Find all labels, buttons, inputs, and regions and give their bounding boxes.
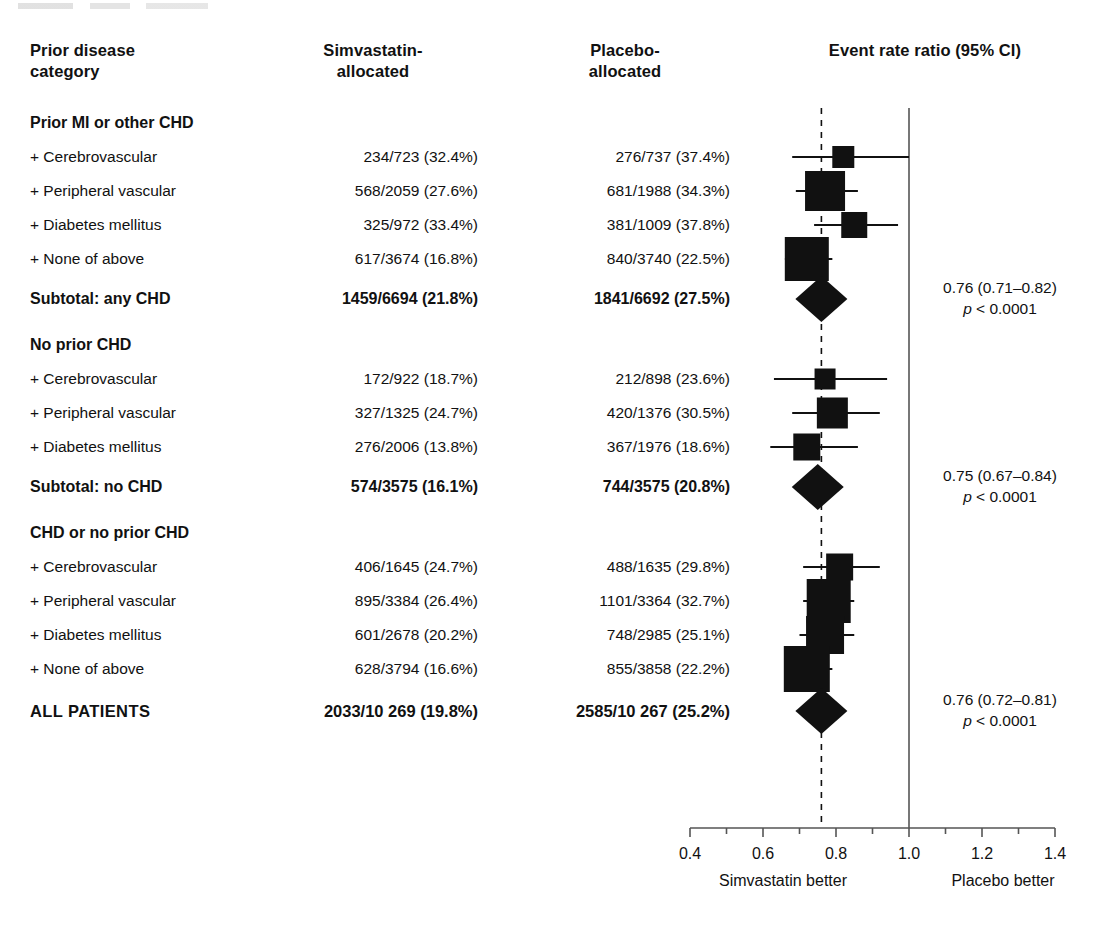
row-category-label: + None of above (30, 658, 290, 680)
row-category-label: + Cerebrovascular (30, 146, 290, 168)
row-placebo-value: 855/3858 (22.2%) (520, 658, 730, 680)
row-placebo-value: 420/1376 (30.5%) (520, 402, 730, 424)
row-placebo-value: 1841/6692 (27.5%) (520, 288, 730, 310)
row-simvastatin-value: 628/3794 (16.6%) (268, 658, 478, 680)
row-category-label: + None of above (30, 248, 290, 270)
column-header-placebo: Placebo- allocated (520, 40, 730, 82)
row-placebo-value: 744/3575 (20.8%) (520, 476, 730, 498)
row-category-label: + Peripheral vascular (30, 402, 290, 424)
row-category-label: No prior CHD (30, 334, 290, 356)
row-category-label: Subtotal: no CHD (30, 476, 290, 498)
plot-title: Event rate ratio (95% CI) (760, 40, 1090, 61)
point-estimate-square (806, 616, 844, 654)
axis-tick-label: 1.4 (1025, 845, 1085, 863)
table-row: CHD or no prior CHD (0, 522, 760, 544)
column-header-category: Prior disease category (30, 40, 260, 82)
axis-footer-left: Simvastatin better (668, 872, 898, 890)
row-simvastatin-value: 234/723 (32.4%) (268, 146, 478, 168)
point-estimate-square (832, 146, 854, 168)
row-simvastatin-value: 327/1325 (24.7%) (268, 402, 478, 424)
row-category-label: + Diabetes mellitus (30, 436, 290, 458)
table-row: + Peripheral vascular327/1325 (24.7%)420… (0, 402, 760, 424)
row-category-label: ALL PATIENTS (30, 700, 290, 722)
table-row: ALL PATIENTS2033/10 269 (19.8%)2585/10 2… (0, 700, 760, 722)
table-row: No prior CHD (0, 334, 760, 356)
row-placebo-value: 212/898 (23.6%) (520, 368, 730, 390)
axis-tick-label: 1.0 (879, 845, 939, 863)
row-simvastatin-value: 325/972 (33.4%) (268, 214, 478, 236)
row-simvastatin-value: 617/3674 (16.8%) (268, 248, 478, 270)
summary-ratio: 0.76 (0.71–0.82) (900, 277, 1100, 298)
summary-diamond (795, 276, 847, 322)
table-row: + Peripheral vascular895/3384 (26.4%)110… (0, 590, 760, 612)
pvalue-symbol: p (963, 300, 972, 317)
table-row: + Cerebrovascular172/922 (18.7%)212/898 … (0, 368, 760, 390)
pvalue-number: < 0.0001 (972, 488, 1037, 505)
row-simvastatin-value: 1459/6694 (21.8%) (268, 288, 478, 310)
column-header-simvastatin: Simvastatin- allocated (268, 40, 478, 82)
table-row: Subtotal: any CHD1459/6694 (21.8%)1841/6… (0, 288, 760, 310)
column-header-category-line2: category (30, 61, 260, 82)
summary-pvalue: p < 0.0001 (900, 710, 1100, 731)
forest-plot-figure: Prior disease category Simvastatin- allo… (0, 0, 1113, 925)
row-category-label: + Cerebrovascular (30, 368, 290, 390)
row-category-label: CHD or no prior CHD (30, 522, 290, 544)
point-estimate-square (784, 646, 830, 692)
pvalue-number: < 0.0001 (972, 300, 1037, 317)
pvalue-symbol: p (963, 488, 972, 505)
row-category-label: + Diabetes mellitus (30, 214, 290, 236)
point-estimate-square (815, 369, 836, 390)
scan-artifact (18, 3, 238, 9)
axis-tick-label: 0.6 (733, 845, 793, 863)
point-estimate-square (817, 398, 848, 429)
row-simvastatin-value: 574/3575 (16.1%) (268, 476, 478, 498)
row-simvastatin-value: 568/2059 (27.6%) (268, 180, 478, 202)
row-category-label: + Peripheral vascular (30, 590, 290, 612)
row-category-label: Prior MI or other CHD (30, 112, 290, 134)
row-category-label: + Peripheral vascular (30, 180, 290, 202)
point-estimate-square (826, 554, 853, 581)
summary-ratio: 0.75 (0.67–0.84) (900, 465, 1100, 486)
pvalue-number: < 0.0001 (972, 712, 1037, 729)
axis-tick-label: 1.2 (952, 845, 1012, 863)
pvalue-symbol: p (963, 712, 972, 729)
row-placebo-value: 681/1988 (34.3%) (520, 180, 730, 202)
table-row: + Diabetes mellitus325/972 (33.4%)381/10… (0, 214, 760, 236)
point-estimate-square (793, 434, 820, 461)
table-row: + Cerebrovascular234/723 (32.4%)276/737 … (0, 146, 760, 168)
row-placebo-value: 1101/3364 (32.7%) (520, 590, 730, 612)
point-estimate-square (785, 237, 829, 281)
row-simvastatin-value: 406/1645 (24.7%) (268, 556, 478, 578)
table-row: + None of above617/3674 (16.8%)840/3740 … (0, 248, 760, 270)
axis-tick-label: 0.8 (806, 845, 866, 863)
row-category-label: Subtotal: any CHD (30, 288, 290, 310)
row-placebo-value: 840/3740 (22.5%) (520, 248, 730, 270)
row-simvastatin-value: 601/2678 (20.2%) (268, 624, 478, 646)
summary-annotation: 0.75 (0.67–0.84)p < 0.0001 (900, 465, 1100, 507)
summary-pvalue: p < 0.0001 (900, 298, 1100, 319)
table-row: + Diabetes mellitus276/2006 (13.8%)367/1… (0, 436, 760, 458)
row-placebo-value: 488/1635 (29.8%) (520, 556, 730, 578)
table-row: + Peripheral vascular568/2059 (27.6%)681… (0, 180, 760, 202)
row-placebo-value: 2585/10 267 (25.2%) (520, 700, 730, 722)
table-row: Subtotal: no CHD574/3575 (16.1%)744/3575… (0, 476, 760, 498)
row-category-label: + Diabetes mellitus (30, 624, 290, 646)
row-simvastatin-value: 895/3384 (26.4%) (268, 590, 478, 612)
axis-footer-right: Placebo better (898, 872, 1108, 890)
table-row: + None of above628/3794 (16.6%)855/3858 … (0, 658, 760, 680)
table-row: Prior MI or other CHD (0, 112, 760, 134)
row-simvastatin-value: 2033/10 269 (19.8%) (268, 700, 478, 722)
table-row: + Cerebrovascular406/1645 (24.7%)488/163… (0, 556, 760, 578)
summary-diamond (792, 464, 844, 510)
row-simvastatin-value: 276/2006 (13.8%) (268, 436, 478, 458)
axis-tick-label: 0.4 (660, 845, 720, 863)
point-estimate-square (805, 171, 845, 211)
summary-annotation: 0.76 (0.71–0.82)p < 0.0001 (900, 277, 1100, 319)
row-placebo-value: 748/2985 (25.1%) (520, 624, 730, 646)
point-estimate-square (807, 579, 851, 623)
column-header-placebo-line2: allocated (520, 61, 730, 82)
forest-plot-canvas (0, 0, 1113, 925)
point-estimate-square (841, 212, 867, 238)
summary-pvalue: p < 0.0001 (900, 486, 1100, 507)
row-placebo-value: 367/1976 (18.6%) (520, 436, 730, 458)
